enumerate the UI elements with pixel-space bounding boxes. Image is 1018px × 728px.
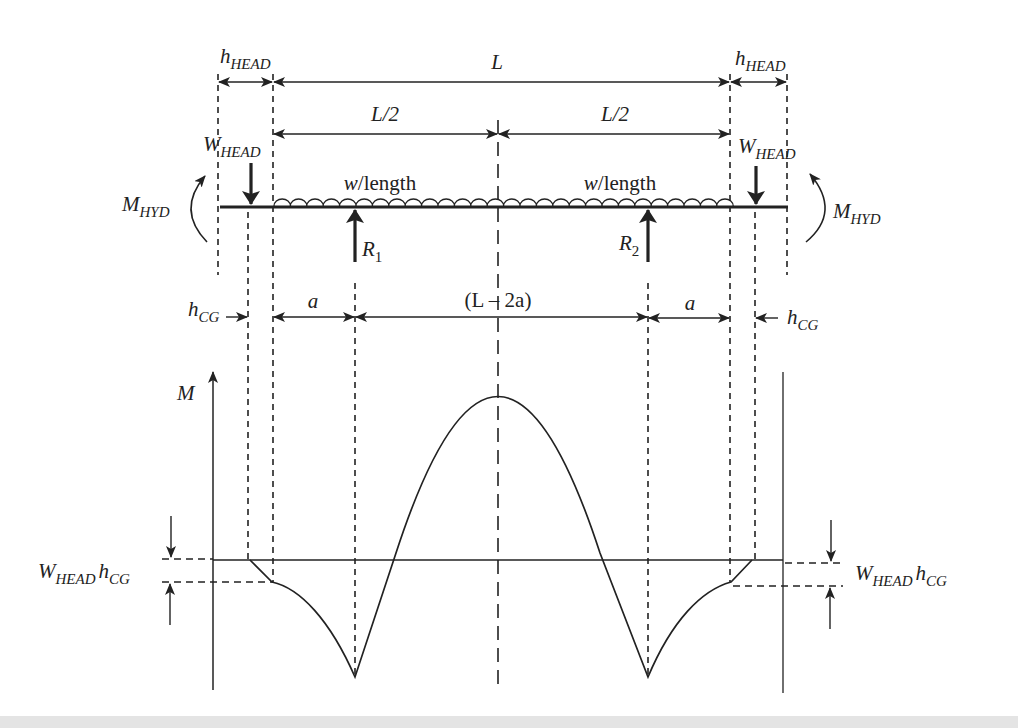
step-arrows <box>170 516 831 629</box>
label-moment-axis: M <box>176 381 196 405</box>
label-a-right: a <box>685 291 696 315</box>
label-w-length-left: w/length <box>344 171 417 195</box>
label-step-left: WHEADhCG <box>38 559 130 587</box>
head-weight-arrows <box>251 163 756 204</box>
label-w-head-right: WHEAD <box>738 134 796 162</box>
reaction-arrows <box>355 210 648 262</box>
beam-moment-diagram: hHEAD L hHEAD L/2 L/2 w/length w/length … <box>0 0 1018 728</box>
label-half-left: L/2 <box>370 102 400 126</box>
label-w-length-right: w/length <box>584 171 657 195</box>
label-h-cg-right: hCG <box>787 305 819 333</box>
label-step-right: WHEADhCG <box>855 561 947 589</box>
label-r1: R1 <box>361 237 382 265</box>
label-h-head-right: hHEAD <box>735 46 786 74</box>
label-m-hyd-right: MHYD <box>832 199 881 227</box>
label-m-hyd-left: MHYD <box>121 192 170 220</box>
extension-lines <box>218 74 787 686</box>
label-middle-span: (L – 2a) <box>465 288 532 312</box>
dimension-row-spans <box>226 317 778 318</box>
moment-curve <box>250 397 752 678</box>
m-hyd-right-arrow <box>806 174 825 242</box>
distributed-load <box>274 199 733 206</box>
label-h-head-left: hHEAD <box>220 44 271 72</box>
label-w-head-left: WHEAD <box>203 132 261 160</box>
label-half-right: L/2 <box>600 102 630 126</box>
m-hyd-left-arrow <box>191 176 207 242</box>
label-L: L <box>490 50 503 74</box>
label-a-left: a <box>308 289 319 313</box>
footer-strip <box>0 716 1018 728</box>
label-r2: R2 <box>618 231 639 259</box>
label-h-cg-left: hCG <box>188 297 220 325</box>
